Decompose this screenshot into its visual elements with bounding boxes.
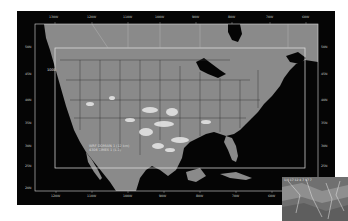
lat-label-left: 45N xyxy=(25,73,31,76)
lat-label-right: 25N xyxy=(321,165,327,168)
lon-label-bottom: 120W xyxy=(51,195,60,198)
lon-label-bottom: 90W xyxy=(159,195,166,198)
lon-label-top: 120W xyxy=(87,16,96,19)
lon-label-bottom: 80W xyxy=(196,195,203,198)
lat-label-right: 35N xyxy=(321,122,327,125)
domain-box-label: 1000 xyxy=(47,68,56,72)
land-florida xyxy=(224,136,238,162)
lon-label-top: 90W xyxy=(192,16,199,19)
lon-label-top: 130W xyxy=(49,16,58,19)
lon-label-bottom: 70W xyxy=(232,195,239,198)
lat-label-left: 35N xyxy=(25,122,31,125)
lat-label-right: 45N xyxy=(321,73,327,76)
lon-label-top: 70W xyxy=(266,16,273,19)
lon-label-bottom: 60W xyxy=(268,195,275,198)
lon-label-top: 100W xyxy=(155,16,164,19)
lon-label-top: 110W xyxy=(123,16,132,19)
lon-label-top: 60W xyxy=(302,16,309,19)
lon-label-top: 80W xyxy=(228,16,235,19)
lon-label-bottom: 110W xyxy=(87,195,96,198)
inset-satellite-image: 1/4 17 12 4 7 17 7 xyxy=(282,177,348,221)
lat-label-right: 40N xyxy=(321,99,327,102)
lat-label-right: 30N xyxy=(321,145,327,148)
lat-label-left: 20N xyxy=(25,187,31,190)
inset-caption: 1/4 17 12 4 7 17 7 xyxy=(284,178,312,182)
lat-label-left: 40N xyxy=(25,99,31,102)
lat-label-left: 25N xyxy=(25,165,31,168)
lat-label-left: 50N xyxy=(25,46,31,49)
lat-label-left: 30N xyxy=(25,145,31,148)
inset-imagery xyxy=(282,177,348,221)
land-north-america xyxy=(44,24,318,191)
annotation-line-2: 4306 TIMES 1 (L 2) xyxy=(89,149,129,153)
land-cuba xyxy=(220,172,252,180)
land-yucatan xyxy=(186,168,206,182)
domain-annotation: WRF DOMAIN 1 (12 km) 4306 TIMES 1 (L 2) xyxy=(89,145,129,153)
lon-label-bottom: 100W xyxy=(123,195,132,198)
lat-label-right: 50N xyxy=(321,46,327,49)
